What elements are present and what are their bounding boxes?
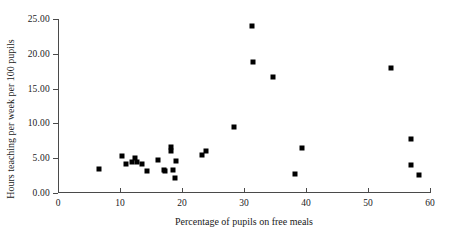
x-tick-label: 30 bbox=[239, 198, 249, 208]
x-tick-mark bbox=[306, 188, 307, 193]
y-tick-mark bbox=[53, 123, 58, 124]
data-point bbox=[232, 124, 237, 129]
data-point bbox=[250, 60, 255, 65]
x-tick-label: 20 bbox=[177, 198, 187, 208]
y-tick-mark bbox=[53, 19, 58, 20]
y-tick-mark bbox=[53, 54, 58, 55]
x-tick-mark bbox=[58, 188, 59, 193]
data-point bbox=[204, 148, 209, 153]
y-axis-line bbox=[58, 19, 59, 193]
x-tick-label: 0 bbox=[56, 198, 61, 208]
x-tick-mark bbox=[182, 188, 183, 193]
data-point bbox=[171, 168, 176, 173]
y-tick-label: 10.00 bbox=[28, 118, 50, 128]
scatter-plot-figure: Hours teaching per week per 100 pupils 0… bbox=[0, 0, 450, 238]
data-point bbox=[163, 169, 168, 174]
data-point bbox=[271, 74, 276, 79]
x-tick-label: 40 bbox=[301, 198, 311, 208]
data-point bbox=[139, 162, 144, 167]
data-point bbox=[124, 162, 129, 167]
data-point bbox=[409, 136, 414, 141]
data-point bbox=[169, 149, 174, 154]
y-tick-mark bbox=[53, 193, 58, 194]
data-point bbox=[145, 168, 150, 173]
x-tick-mark bbox=[244, 188, 245, 193]
x-tick-label: 10 bbox=[115, 198, 125, 208]
y-tick-label: 25.00 bbox=[28, 14, 50, 24]
y-tick-label: 15.00 bbox=[28, 84, 50, 94]
data-point bbox=[172, 175, 177, 180]
x-tick-label: 50 bbox=[363, 198, 373, 208]
y-tick-label: 0.00 bbox=[33, 188, 50, 198]
data-point bbox=[292, 171, 297, 176]
data-point bbox=[416, 172, 421, 177]
data-point bbox=[174, 158, 179, 163]
plot-area: 0.005.0010.0015.0020.0025.00 01020304050… bbox=[58, 19, 430, 193]
data-point bbox=[156, 158, 161, 163]
x-tick-mark bbox=[368, 188, 369, 193]
y-tick-mark bbox=[53, 158, 58, 159]
y-tick-mark bbox=[53, 89, 58, 90]
data-point bbox=[200, 153, 205, 158]
x-tick-mark bbox=[120, 188, 121, 193]
y-axis-title: Hours teaching per week per 100 pupils bbox=[5, 24, 16, 214]
x-tick-label: 60 bbox=[425, 198, 435, 208]
data-point bbox=[129, 160, 134, 165]
x-axis-title: Percentage of pupils on free meals bbox=[58, 216, 430, 227]
y-tick-label: 20.00 bbox=[28, 49, 50, 59]
y-tick-label: 5.00 bbox=[33, 153, 50, 163]
data-point bbox=[119, 154, 124, 159]
data-point bbox=[409, 163, 414, 168]
data-point bbox=[388, 65, 393, 70]
data-point bbox=[250, 23, 255, 28]
x-tick-mark bbox=[430, 188, 431, 193]
data-point bbox=[300, 145, 305, 150]
data-point bbox=[96, 166, 101, 171]
